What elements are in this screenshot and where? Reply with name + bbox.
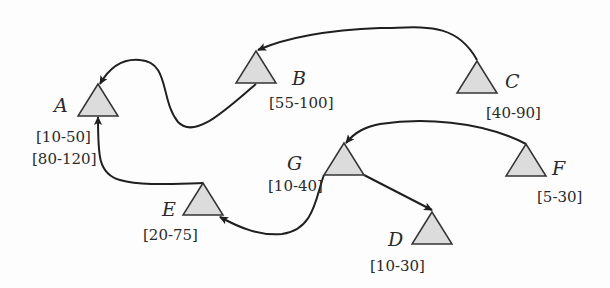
edge-c-to-b xyxy=(258,27,477,60)
node-f: F [5-30] xyxy=(506,144,582,206)
node-b: B [55-100] xyxy=(236,51,334,112)
node-range: [40-90] xyxy=(486,104,541,122)
node-label: E xyxy=(161,198,176,220)
triangle-node-icon xyxy=(236,51,276,83)
node-a: A [10-50] [80-120] xyxy=(32,84,118,168)
triangle-node-icon xyxy=(183,183,223,215)
node-label: F xyxy=(551,157,566,179)
node-label: B xyxy=(291,67,306,89)
node-range: [20-75] xyxy=(143,226,198,244)
node-label: D xyxy=(387,228,403,250)
triangle-node-icon xyxy=(457,61,497,93)
node-range: [55-100] xyxy=(269,94,334,112)
triangle-node-icon xyxy=(412,212,452,244)
node-label: G xyxy=(287,152,302,174)
node-label: C xyxy=(505,70,520,92)
triangle-node-icon xyxy=(324,143,364,175)
triangle-node-icon xyxy=(506,144,546,176)
edge-f-to-g xyxy=(346,121,526,144)
node-range: [80-120] xyxy=(32,150,97,168)
node-range: [10-30] xyxy=(370,257,425,275)
triangle-node-icon xyxy=(78,84,118,116)
node-range: [5-30] xyxy=(537,188,582,206)
node-e: E [20-75] xyxy=(143,183,223,244)
node-range: [10-50] xyxy=(36,128,91,146)
node-range: [10-40] xyxy=(268,177,323,195)
edge-b-to-a xyxy=(100,60,256,128)
node-g: G [10-40] xyxy=(268,143,364,195)
edge-g-to-d xyxy=(364,175,432,210)
node-d: D [10-30] xyxy=(370,212,452,275)
node-c: C [40-90] xyxy=(457,61,541,122)
node-label: A xyxy=(52,94,68,116)
graph-diagram: A [10-50] [80-120] B [55-100] C [40-90] … xyxy=(0,0,610,288)
